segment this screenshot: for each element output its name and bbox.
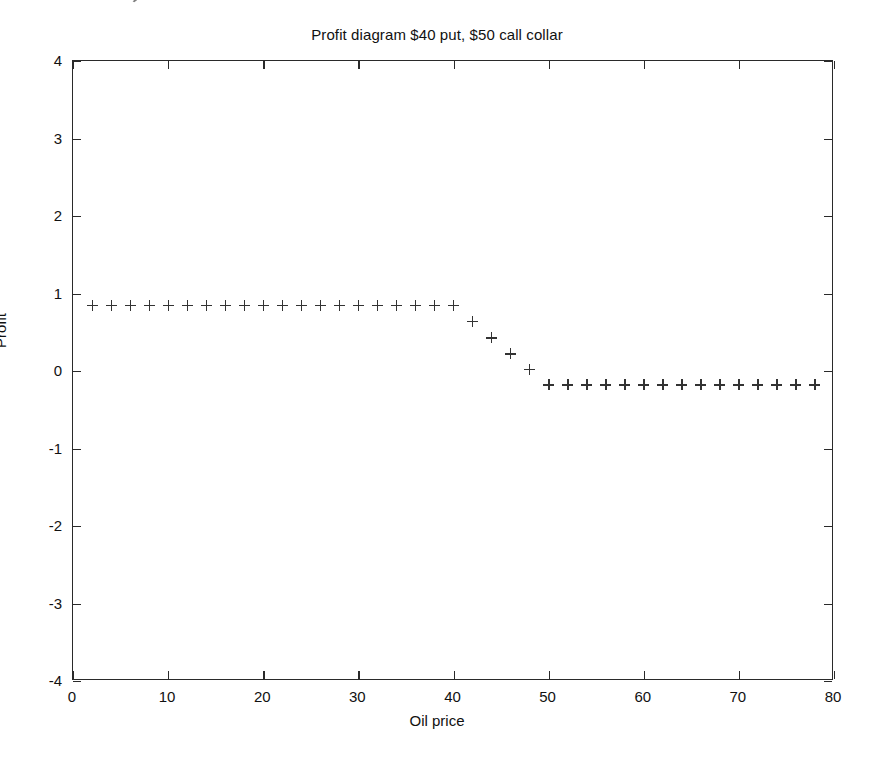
scan-artifact: [126, 0, 194, 22]
y-axis-tick-labels: -4-3-2-101234: [0, 60, 874, 680]
y-tick-label: 4: [0, 52, 62, 69]
profit-diagram-figure: Profit diagram $40 put, $50 call collar …: [0, 0, 874, 757]
x-tick-label: 0: [68, 688, 76, 705]
y-tick-mark: [824, 681, 832, 682]
x-axis-label: Oil price: [0, 712, 874, 729]
y-tick-label: -4: [0, 672, 62, 689]
y-tick-label: 2: [0, 207, 62, 224]
x-tick-label: 30: [349, 688, 366, 705]
x-tick-label: 50: [539, 688, 556, 705]
x-tick-label: 70: [730, 688, 747, 705]
x-tick-label: 60: [634, 688, 651, 705]
y-tick-label: 3: [0, 129, 62, 146]
y-tick-label: 1: [0, 284, 62, 301]
y-tick-label: -2: [0, 517, 62, 534]
x-tick-label: 20: [254, 688, 271, 705]
x-tick-label: 80: [825, 688, 842, 705]
x-tick-label: 40: [444, 688, 461, 705]
y-tick-mark: [73, 681, 81, 682]
y-tick-label: -1: [0, 439, 62, 456]
x-tick-label: 10: [159, 688, 176, 705]
y-axis-label: Profit: [0, 313, 9, 348]
y-tick-label: -3: [0, 594, 62, 611]
y-tick-label: 0: [0, 362, 62, 379]
chart-title: Profit diagram $40 put, $50 call collar: [0, 26, 874, 43]
